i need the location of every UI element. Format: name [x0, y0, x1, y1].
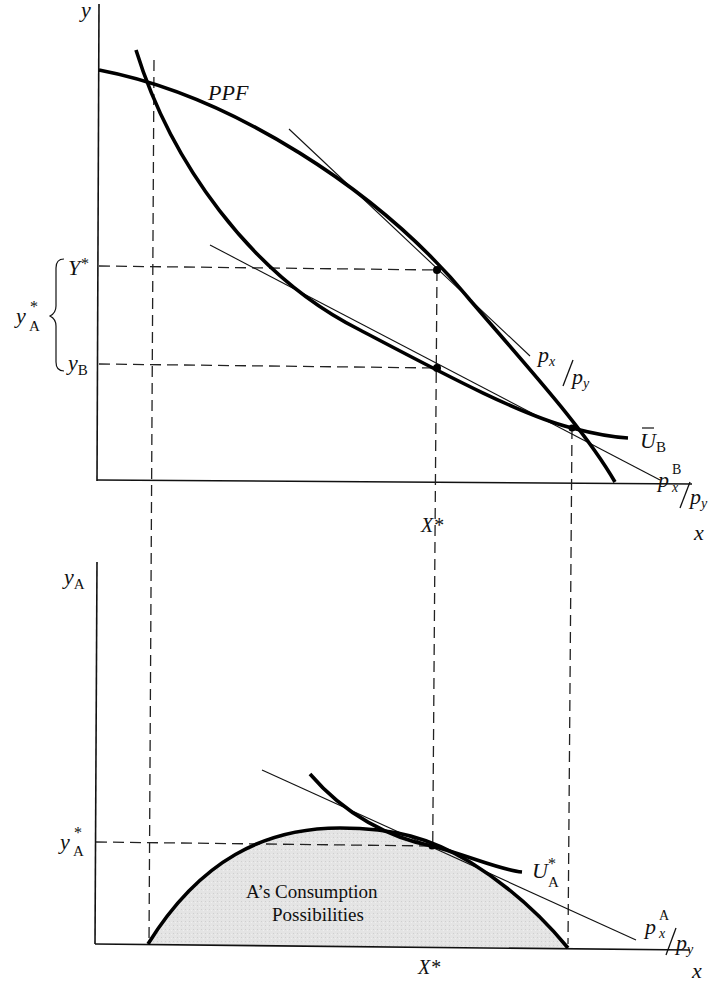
top-panel: y x PPF Y* yB y * A X* px py UB p B x py	[14, 0, 708, 944]
yb-label: yB	[66, 350, 88, 378]
dashed-horizontal-yb	[99, 364, 437, 368]
svg-text:x: x	[658, 926, 666, 941]
top-x-axis-label: x	[693, 520, 704, 545]
dashed-vertical-right	[568, 428, 572, 944]
bottom-x-axis-label: x	[691, 958, 702, 983]
dashed-vertical-left	[149, 60, 154, 944]
bracket-label: y	[14, 303, 26, 328]
bottom-y-axis-label: yA	[62, 564, 85, 592]
svg-text:B: B	[672, 462, 681, 477]
svg-text:*: *	[548, 855, 556, 872]
ya-star-sup: *	[74, 824, 82, 841]
ppf-curve	[99, 70, 615, 482]
top-x-axis	[97, 480, 692, 484]
svg-text:A: A	[548, 874, 559, 890]
ub-label: UB	[640, 428, 666, 455]
point-consumption-b	[433, 364, 441, 372]
xstar-bottom-label: X*	[417, 956, 440, 978]
ppf-label: PPF	[207, 80, 249, 105]
svg-text:py: py	[688, 484, 708, 511]
svg-text:x: x	[671, 480, 679, 495]
indifference-curve-b	[136, 50, 628, 438]
region-label-line1: A’s Consumption	[246, 881, 378, 902]
xstar-top-label: X*	[420, 514, 443, 536]
point-consumption-a	[429, 843, 436, 850]
point-intersection	[569, 425, 576, 432]
general-equilibrium-diagram: y x PPF Y* yB y * A X* px py UB p B x py	[0, 0, 723, 986]
region-label-line2: Possibilities	[272, 904, 364, 925]
top-y-axis	[97, 4, 99, 481]
bracket-label-sub: A	[29, 318, 40, 334]
bottom-panel: yA x y * A X* A’s Consumption Possibilit…	[58, 562, 702, 983]
ya-star-bracket	[50, 259, 64, 371]
svg-text:A: A	[659, 908, 670, 923]
point-production	[433, 266, 441, 274]
svg-text:p: p	[656, 467, 669, 492]
bottom-y-axis	[95, 562, 97, 944]
ua-label: U * A	[532, 855, 559, 890]
price-ratio-b-label: p B x py	[656, 462, 708, 511]
svg-text:py: py	[674, 930, 694, 957]
svg-text:py: py	[570, 364, 590, 391]
ya-star-sub: A	[73, 843, 84, 859]
ystar-label: Y*	[68, 255, 88, 280]
top-y-axis-label: y	[79, 0, 91, 22]
bracket-label-sup: *	[30, 298, 38, 315]
price-line-top	[289, 129, 530, 356]
svg-text:UB: UB	[640, 428, 666, 455]
svg-text:px: px	[536, 342, 556, 369]
ya-star-label: y	[58, 829, 70, 854]
svg-text:p: p	[643, 914, 656, 939]
